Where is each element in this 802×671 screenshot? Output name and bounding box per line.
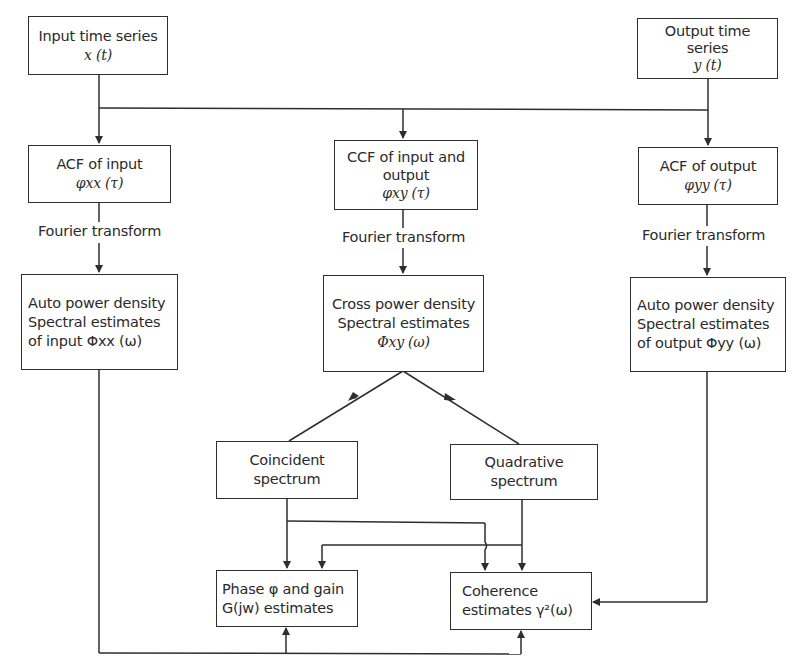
fourier-transform-label-center: Fourier transform xyxy=(341,229,466,245)
node-label: Coincident xyxy=(249,451,324,470)
auto-power-input-node: Auto power density Spectral estimates of… xyxy=(21,274,178,370)
input-time-series-node: Input time series x (t) xyxy=(28,16,168,75)
node-formula: y (t) xyxy=(694,57,722,74)
node-label: CCF of input and xyxy=(347,148,465,166)
node-label: series xyxy=(687,40,729,57)
output-time-series-node: Output time series y (t) xyxy=(637,18,778,79)
quadrative-spectrum-node: Quadrative spectrum xyxy=(450,444,598,500)
node-formula: φxy (τ) xyxy=(382,184,429,202)
node-label: Spectral estimates xyxy=(637,315,769,334)
node-label: Auto power density xyxy=(637,296,774,315)
node-label: Cross power density xyxy=(332,295,475,314)
node-formula: x (t) xyxy=(84,46,112,65)
acf-output-node: ACF of output φyy (τ) xyxy=(638,147,778,205)
ccf-node: CCF of input and output φxy (τ) xyxy=(334,140,478,210)
node-label: ACF of input xyxy=(56,155,142,174)
fourier-transform-label-left: Fourier transform xyxy=(37,223,162,239)
node-formula: of output Φyy (ω) xyxy=(637,334,761,353)
node-label: Coherence xyxy=(462,582,538,601)
node-label: Auto power density xyxy=(28,294,165,313)
phase-gain-node: Phase φ and gain G(jw) estimates xyxy=(216,570,358,627)
coincident-spectrum-node: Coincident spectrum xyxy=(216,441,358,499)
node-formula: φyy (τ) xyxy=(684,176,731,195)
node-label: spectrum xyxy=(490,472,557,491)
fourier-transform-label-right: Fourier transform xyxy=(641,227,766,243)
node-label: spectrum xyxy=(253,470,320,489)
node-label: Input time series xyxy=(38,27,157,46)
node-label: Quadrative xyxy=(485,453,564,472)
node-label: Phase φ and gain xyxy=(222,580,344,599)
node-formula: φxx (τ) xyxy=(76,174,123,193)
node-formula: of input Φxx (ω) xyxy=(28,332,142,351)
cross-power-node: Cross power density Spectral estimates Φ… xyxy=(323,275,484,372)
coherence-node: Coherence estimates γ²(ω) xyxy=(450,572,592,630)
node-label: ACF of output xyxy=(660,157,757,176)
node-label: Output time xyxy=(665,23,751,40)
node-label: estimates γ²(ω) xyxy=(462,601,573,620)
auto-power-output-node: Auto power density Spectral estimates of… xyxy=(630,277,786,372)
node-label: Spectral estimates xyxy=(28,313,160,332)
node-label: Spectral estimates xyxy=(337,314,469,333)
node-label: output xyxy=(383,166,430,184)
acf-input-node: ACF of input φxx (τ) xyxy=(28,145,171,203)
node-label: G(jw) estimates xyxy=(222,599,333,618)
node-formula: Φxy (ω) xyxy=(377,333,430,352)
